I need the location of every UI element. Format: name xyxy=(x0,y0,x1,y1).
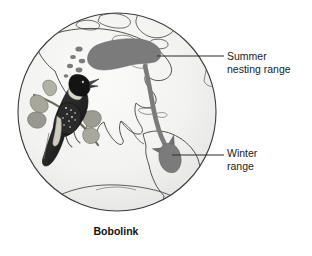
figure-caption: Bobolink xyxy=(0,225,232,237)
summer-range-label: Summer nesting range xyxy=(227,50,291,75)
leaf-right-lower xyxy=(83,128,100,144)
winter-range-label: Winter range xyxy=(227,147,257,172)
bird-pupil xyxy=(83,82,84,83)
winter-range-label-line1: Winter xyxy=(227,147,257,160)
winter-range-label-line2: range xyxy=(227,160,257,173)
globe-americas xyxy=(18,10,222,221)
summer-range-label-line2: nesting range xyxy=(227,63,291,76)
bobolink-range-map-figure xyxy=(0,0,312,256)
summer-range-label-line1: Summer xyxy=(227,50,291,63)
